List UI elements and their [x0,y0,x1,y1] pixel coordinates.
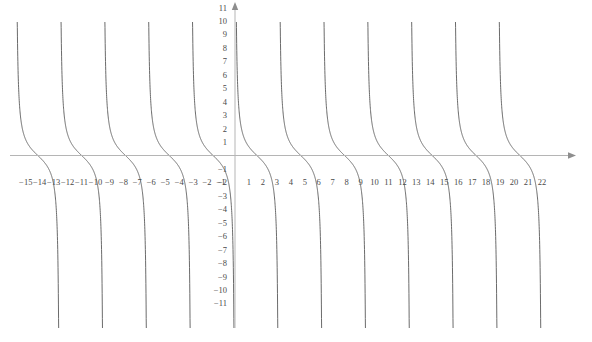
y-tick-label: 1 [223,137,227,147]
cotangent-branch [412,22,453,328]
y-tick-label: 10 [219,16,228,26]
y-tick-label: −2 [218,177,227,187]
y-axis-arrow-icon [232,2,238,10]
y-tick-label: 7 [223,56,227,66]
cotangent-branch [280,22,321,328]
x-tick-labels: −15−14−13−12−11−10−9−8−7−6−5−4−3−2−11234… [19,177,546,187]
x-tick-label: −4 [175,177,185,187]
x-tick-label: −13 [47,177,60,187]
x-tick-label: −7 [133,177,142,187]
y-tick-label: 9 [223,29,227,39]
cotangent-branch [324,22,365,328]
x-tick-label: 14 [426,177,435,187]
x-tick-label: 19 [496,177,505,187]
y-tick-label: −8 [218,258,227,268]
x-tick-label: 8 [344,177,348,187]
cotangent-branch [236,22,277,328]
y-tick-label: −3 [218,191,227,201]
x-axis-arrow-icon [568,152,576,158]
x-tick-label: 10 [370,177,379,187]
y-tick-label: 5 [223,83,227,93]
y-tick-label: −9 [218,272,227,282]
x-tick-label: −12 [61,177,74,187]
x-tick-label: −3 [189,177,198,187]
x-tick-label: −11 [75,177,88,187]
y-tick-label: −11 [214,298,227,308]
y-tick-label: −10 [214,285,227,295]
y-tick-label: −6 [218,231,227,241]
x-tick-label: 4 [289,177,294,187]
x-tick-label: −15 [19,177,32,187]
x-tick-label: 3 [275,177,279,187]
y-tick-label: 6 [223,70,227,80]
cotangent-branch [499,22,540,328]
curve-series [17,22,541,328]
x-tick-label: −6 [147,177,156,187]
x-tick-label: 16 [454,177,463,187]
axes-group [10,2,576,328]
x-tick-label: 5 [303,177,307,187]
x-tick-label: −9 [105,177,114,187]
x-tick-label: 11 [384,177,392,187]
cotangent-branch [455,22,496,328]
plot-canvas: −15−14−13−12−11−10−9−8−7−6−5−4−3−2−11234… [0,0,592,342]
x-tick-label: 17 [468,177,477,187]
y-tick-label: 11 [219,3,227,13]
y-tick-label: 8 [223,43,227,53]
x-tick-label: 13 [412,177,421,187]
x-tick-label: 15 [440,177,449,187]
x-tick-label: 20 [510,177,519,187]
x-tick-label: −10 [89,177,102,187]
cotangent-branch [149,22,190,328]
x-tick-label: 7 [331,177,335,187]
x-tick-label: 21 [524,177,533,187]
x-tick-label: 1 [247,177,251,187]
cotangent-branch [105,22,146,328]
x-tick-label: 18 [482,177,491,187]
x-tick-label: −2 [203,177,212,187]
x-tick-label: −14 [33,177,47,187]
x-tick-label: 9 [358,177,362,187]
y-tick-label: −5 [218,218,227,228]
cotangent-branch [193,22,234,328]
x-tick-label: 6 [317,177,321,187]
cotangent-plot: −15−14−13−12−11−10−9−8−7−6−5−4−3−2−11234… [0,0,592,342]
cotangent-branch [368,22,409,328]
y-tick-label: 4 [223,97,228,107]
y-tick-label: −7 [218,245,227,255]
y-tick-label: −4 [218,204,228,214]
cotangent-branch [17,22,58,328]
y-tick-label: 2 [223,124,227,134]
y-tick-label: −1 [218,164,227,174]
x-tick-label: −5 [161,177,170,187]
x-tick-label: 22 [538,177,547,187]
cotangent-branch [61,22,102,328]
x-tick-label: 2 [261,177,265,187]
y-tick-label: 3 [223,110,227,120]
x-tick-label: −8 [119,177,128,187]
x-tick-label: 12 [398,177,407,187]
